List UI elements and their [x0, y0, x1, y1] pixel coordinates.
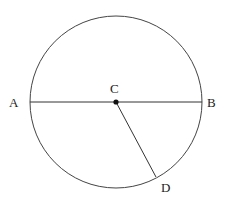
label-d: D — [161, 180, 170, 195]
label-c: C — [110, 81, 119, 96]
center-point — [113, 99, 118, 104]
label-a: A — [9, 95, 19, 110]
circle-diagram: A C B D — [0, 0, 232, 205]
label-b: B — [207, 95, 216, 110]
radius-cd — [116, 102, 156, 177]
